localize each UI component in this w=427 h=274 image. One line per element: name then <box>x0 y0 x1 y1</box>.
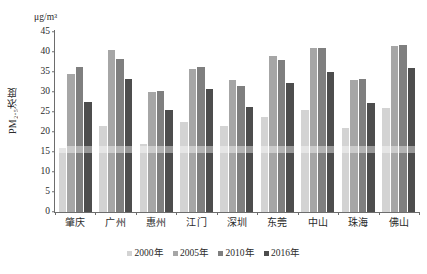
bar <box>399 45 407 212</box>
y-axis-tick: 20 <box>41 127 56 137</box>
bar <box>165 110 173 212</box>
bar <box>286 83 294 212</box>
y-axis-tick: 45 <box>41 27 56 37</box>
y-axis-tick: 30 <box>41 87 56 97</box>
bar <box>116 59 124 212</box>
bar <box>125 79 133 212</box>
bar <box>310 48 318 212</box>
bar <box>140 144 148 212</box>
legend-label: 2000年 <box>135 248 164 259</box>
y-axis-tick-label: 5 <box>45 187 52 197</box>
y-axis-tick: 5 <box>45 187 55 197</box>
y-axis-tick: 40 <box>41 47 56 57</box>
bar <box>342 128 350 212</box>
x-axis-tick-mark <box>176 212 177 215</box>
x-axis-label: 深圳 <box>217 216 257 230</box>
x-axis-tick-mark <box>217 212 218 215</box>
bar <box>180 122 188 212</box>
bar-group <box>95 32 135 212</box>
y-axis-tick: 25 <box>41 107 56 117</box>
x-axis-label: 广州 <box>95 216 135 230</box>
bar-group <box>379 32 419 212</box>
legend-label: 2005年 <box>180 248 209 259</box>
bar <box>229 80 237 212</box>
y-axis-tick-label: 35 <box>41 67 53 77</box>
x-axis-label: 肇庆 <box>55 216 95 230</box>
bar <box>206 89 214 212</box>
bar <box>318 48 326 212</box>
x-axis-tick-mark <box>257 212 258 215</box>
y-axis-tick: 10 <box>41 167 56 177</box>
y-axis-tick-label: 15 <box>41 147 53 157</box>
x-axis-label: 惠州 <box>136 216 176 230</box>
bar <box>67 74 75 212</box>
legend-swatch-icon <box>218 251 223 256</box>
bar <box>189 69 197 212</box>
legend-swatch-icon <box>264 251 269 256</box>
x-axis-tick-mark <box>298 212 299 215</box>
bar-group <box>257 32 297 212</box>
bar-group <box>338 32 378 212</box>
x-axis-tick-mark <box>95 212 96 215</box>
y-axis-tick-label: 40 <box>41 47 53 57</box>
bar <box>261 117 269 212</box>
bar <box>157 91 165 212</box>
y-axis-title: PM₂.₅浓度 <box>5 88 21 134</box>
y-axis-unit-label: μg/m³ <box>34 12 57 23</box>
x-axis-label: 珠海 <box>338 216 378 230</box>
y-axis-tick: 0 <box>45 207 55 217</box>
bar <box>246 107 254 212</box>
legend-item[interactable]: 2005年 <box>173 248 210 259</box>
legend-label: 2010年 <box>226 248 255 259</box>
legend-item[interactable]: 2016年 <box>264 248 301 259</box>
bar <box>327 72 335 212</box>
y-axis-tick-label: 10 <box>41 167 53 177</box>
bar <box>301 110 309 212</box>
x-axis-label: 中山 <box>298 216 338 230</box>
bar <box>367 103 375 212</box>
bar <box>76 67 84 212</box>
x-axis-tick-mark <box>136 212 137 215</box>
bar <box>269 56 277 212</box>
bar <box>350 80 358 212</box>
bar-group <box>298 32 338 212</box>
y-axis-title-text: PM₂.₅浓度 <box>7 88 18 134</box>
bar-group <box>217 32 257 212</box>
x-axis-labels: 肇庆广州惠州江门深圳东莞中山珠海佛山 <box>55 216 419 230</box>
plot-area: 454035302520151050 <box>55 32 419 212</box>
legend-item[interactable]: 2000年 <box>127 248 164 259</box>
bar <box>220 126 228 212</box>
bar-group <box>176 32 216 212</box>
bar <box>391 46 399 212</box>
pm25-grouped-bar-chart: μg/m³ PM₂.₅浓度 454035302520151050 肇庆广州惠州江… <box>0 0 427 274</box>
bar <box>108 50 116 212</box>
bar <box>359 79 367 212</box>
y-axis-tick: 35 <box>41 67 56 77</box>
bar <box>278 60 286 212</box>
bar <box>59 148 67 212</box>
x-axis-label: 佛山 <box>379 216 419 230</box>
x-axis-tick-mark <box>419 212 420 215</box>
y-axis-tick-label: 20 <box>41 127 53 137</box>
x-axis-tick-mark <box>338 212 339 215</box>
y-axis-tick-label: 30 <box>41 87 53 97</box>
bar <box>148 92 156 212</box>
bar-groups <box>55 32 419 212</box>
legend-item[interactable]: 2010年 <box>218 248 255 259</box>
x-axis-tick-mark <box>55 212 56 215</box>
bar <box>99 126 107 212</box>
x-axis-label: 江门 <box>176 216 216 230</box>
bar-group <box>136 32 176 212</box>
bar <box>382 108 390 212</box>
legend-label: 2016年 <box>271 248 300 259</box>
legend-swatch-icon <box>127 251 132 256</box>
y-axis-tick-label: 45 <box>41 27 53 37</box>
chart-legend: 2000年2005年2010年2016年 <box>0 248 427 259</box>
bar <box>408 68 416 212</box>
y-axis-tick-label: 25 <box>41 107 53 117</box>
bar <box>197 67 205 212</box>
y-axis-tick-label: 0 <box>45 207 52 217</box>
y-axis-tick: 15 <box>41 147 56 157</box>
bar <box>237 86 245 212</box>
legend-swatch-icon <box>173 251 178 256</box>
